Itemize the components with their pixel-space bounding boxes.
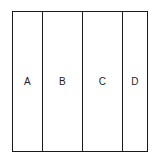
segment-d-label: D	[131, 77, 138, 87]
figure-canvas: A B C D	[0, 0, 159, 161]
partitioned-rectangle: A B C D	[12, 11, 148, 152]
segment-c: C	[83, 12, 123, 151]
segment-b: B	[43, 12, 83, 151]
segment-a-label: A	[24, 77, 31, 87]
segment-c-label: C	[99, 77, 106, 87]
segment-a: A	[13, 12, 43, 151]
segment-d: D	[123, 12, 147, 151]
segment-b-label: B	[59, 77, 66, 87]
